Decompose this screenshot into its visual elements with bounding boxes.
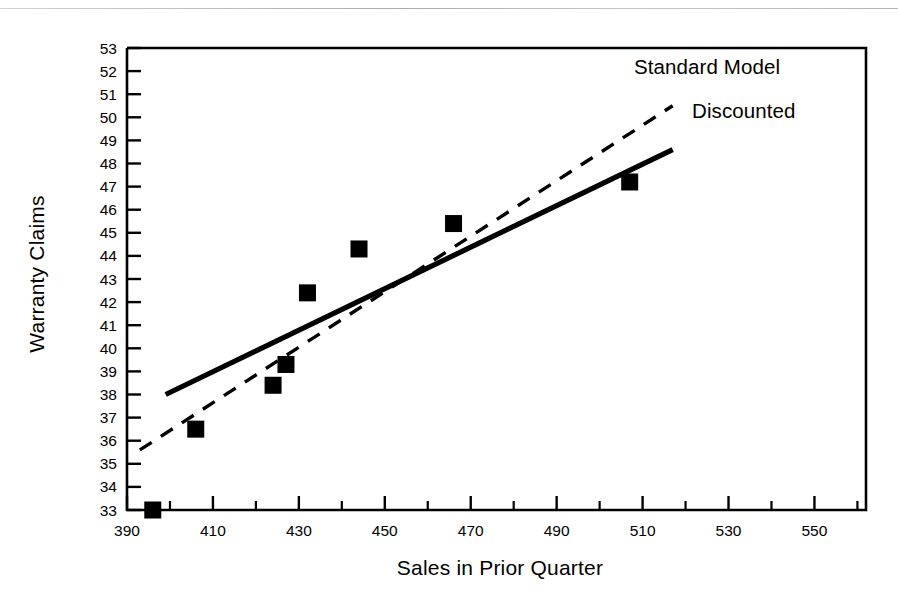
svg-text:33: 33 — [100, 502, 117, 519]
x-axis-ticks — [127, 496, 857, 510]
data-point-markers — [144, 173, 638, 518]
svg-text:43: 43 — [100, 271, 117, 288]
svg-text:44: 44 — [100, 247, 118, 264]
svg-text:390: 390 — [114, 522, 140, 539]
svg-text:490: 490 — [544, 522, 570, 539]
series-line-discounted — [166, 150, 673, 395]
y-axis-tick-labels: 3334353637383940414243444546474849505152… — [100, 40, 118, 519]
svg-text:53: 53 — [100, 40, 117, 57]
svg-text:42: 42 — [100, 294, 117, 311]
x-axis-tick-labels: 390410430450470490510530550 — [114, 522, 828, 539]
svg-text:530: 530 — [716, 522, 742, 539]
svg-text:470: 470 — [458, 522, 484, 539]
svg-text:49: 49 — [100, 132, 117, 149]
svg-text:47: 47 — [100, 178, 117, 195]
svg-text:430: 430 — [286, 522, 312, 539]
y-axis-title: Warranty Claims — [25, 174, 49, 374]
x-axis-title: Sales in Prior Quarter — [320, 556, 680, 580]
svg-text:510: 510 — [630, 522, 656, 539]
svg-text:50: 50 — [100, 109, 118, 126]
svg-text:36: 36 — [100, 432, 117, 449]
svg-text:35: 35 — [100, 455, 117, 472]
chart-plot-area: 3334353637383940414243444546474849505152… — [0, 0, 898, 601]
svg-text:52: 52 — [100, 63, 117, 80]
scatter-chart-figure: 3334353637383940414243444546474849505152… — [0, 0, 898, 601]
svg-text:48: 48 — [100, 155, 117, 172]
svg-text:38: 38 — [100, 386, 117, 403]
svg-text:410: 410 — [200, 522, 226, 539]
svg-text:51: 51 — [100, 86, 117, 103]
svg-text:37: 37 — [100, 409, 117, 426]
svg-text:41: 41 — [100, 317, 117, 334]
y-axis-ticks — [127, 48, 141, 510]
svg-text:40: 40 — [100, 340, 118, 357]
svg-text:550: 550 — [802, 522, 828, 539]
svg-text:450: 450 — [372, 522, 398, 539]
svg-text:45: 45 — [100, 224, 117, 241]
svg-text:39: 39 — [100, 363, 117, 380]
series-label-discounted: Discounted — [692, 99, 796, 123]
series-label-standard-model: Standard Model — [634, 55, 780, 79]
svg-text:34: 34 — [100, 478, 118, 495]
svg-text:46: 46 — [100, 201, 117, 218]
